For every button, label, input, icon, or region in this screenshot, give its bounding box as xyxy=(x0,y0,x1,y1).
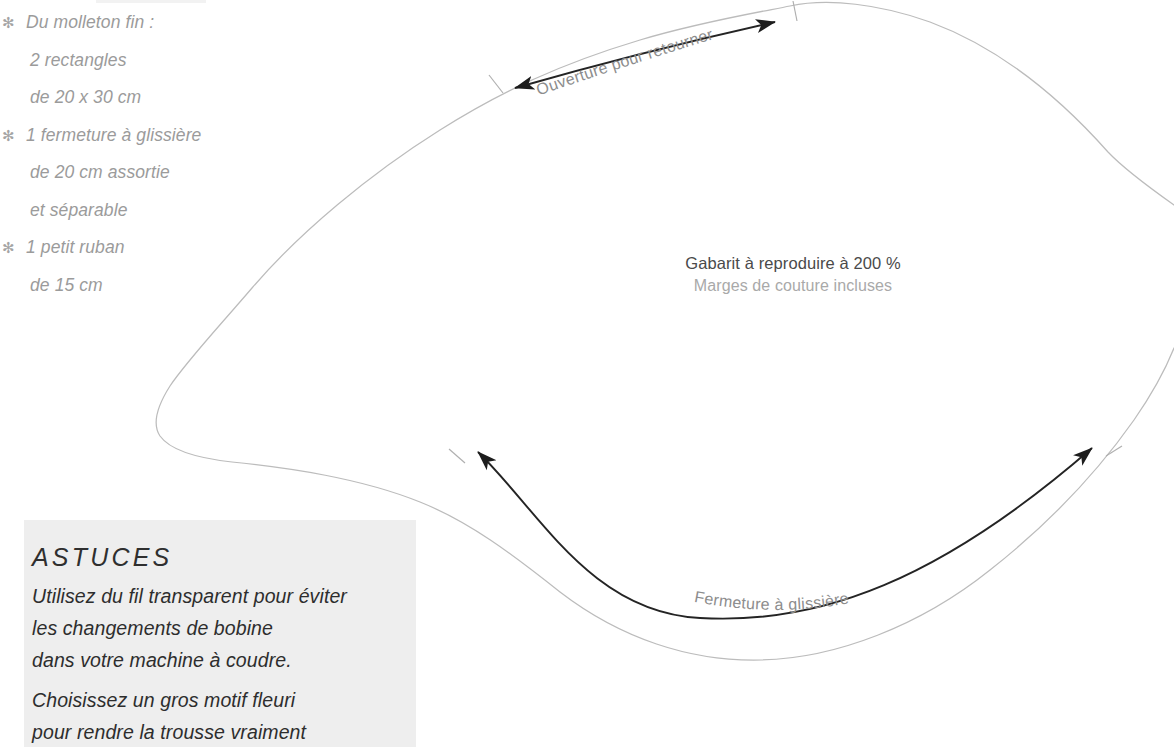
list-item: 2 rectangles xyxy=(0,50,330,88)
list-item-label: 1 fermeture à glissière xyxy=(24,125,201,146)
notch-marks-group xyxy=(449,1,1122,463)
list-item: de 20 cm assortie xyxy=(0,162,330,200)
list-item: et séparable xyxy=(0,200,330,238)
astuces-tips-box: ASTUCES Utilisez du fil transparent pour… xyxy=(24,520,416,747)
label-zipper: Fermeture à glissière xyxy=(693,588,850,613)
notch-mark-bottom-left xyxy=(449,449,465,463)
label-opening-for-turning: Ouverture pour retourner xyxy=(534,25,715,98)
pattern-scale-caption-sub: Marges de couture incluses xyxy=(640,275,946,297)
astuces-line: pour rendre la trousse vraiment xyxy=(24,716,416,747)
asterisk-bullet-icon: ✻ xyxy=(0,128,24,143)
list-item-label: Du molleton fin : xyxy=(24,12,154,33)
astuces-line: les changements de bobine xyxy=(24,612,416,644)
pattern-scale-caption: Gabarit à reproduire à 200 % Marges de c… xyxy=(640,252,946,297)
zipper-arrow-line xyxy=(478,448,1092,619)
pattern-scale-caption-main: Gabarit à reproduire à 200 % xyxy=(640,252,946,274)
astuces-line: Choisissez un gros motif fleuri xyxy=(24,684,416,716)
list-item-label: et séparable xyxy=(24,200,128,221)
list-item: de 20 x 30 cm xyxy=(0,87,330,125)
astuces-title: ASTUCES xyxy=(24,542,416,572)
list-item: de 15 cm xyxy=(0,275,330,313)
list-item-label: 2 rectangles xyxy=(24,50,127,71)
list-item-label: de 20 x 30 cm xyxy=(24,87,141,108)
list-item-label: de 15 cm xyxy=(24,275,103,296)
asterisk-bullet-icon: ✻ xyxy=(0,15,24,30)
notch-mark-top-right xyxy=(793,1,797,21)
list-item-label: 1 petit ruban xyxy=(24,237,125,258)
asterisk-bullet-icon: ✻ xyxy=(0,240,24,255)
label-zipper-textpath: Fermeture à glissière xyxy=(693,588,850,613)
astuces-paragraph: Utilisez du fil transparent pour éviter … xyxy=(24,580,416,676)
astuces-line: dans votre machine à coudre. xyxy=(24,644,416,676)
astuces-line: Utilisez du fil transparent pour éviter xyxy=(24,580,416,612)
list-item: ✻ Du molleton fin : xyxy=(0,12,330,50)
list-item: ✻ 1 fermeture à glissière xyxy=(0,125,330,163)
astuces-paragraph: Choisissez un gros motif fleuri pour ren… xyxy=(24,684,416,747)
document-page: Ouverture pour retourner Fermeture à gli… xyxy=(0,0,1174,747)
label-opening-for-turning-textpath: Ouverture pour retourner xyxy=(534,25,715,98)
list-item-label: de 20 cm assortie xyxy=(24,162,170,183)
notch-mark-top-left xyxy=(489,75,503,93)
list-item: ✻ 1 petit ruban xyxy=(0,237,330,275)
materials-list: ✻ Du molleton fin : 2 rectangles de 20 x… xyxy=(0,12,330,312)
